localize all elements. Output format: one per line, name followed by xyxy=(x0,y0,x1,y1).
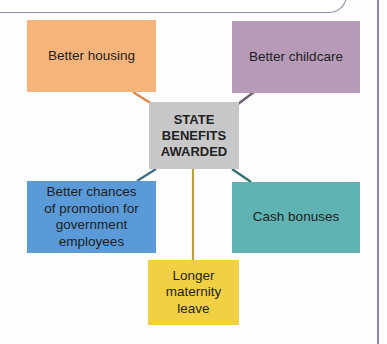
center-label-line: BENEFITS xyxy=(162,128,226,144)
node-label-line: of promotion for xyxy=(44,201,139,218)
node-label-line: employees xyxy=(59,234,124,251)
node-label-line: leave xyxy=(177,301,209,318)
connector-childcare xyxy=(238,92,254,104)
node-better-childcare: Better childcare xyxy=(232,21,360,93)
node-better-housing: Better housing xyxy=(27,20,156,92)
node-label-line: Longer xyxy=(172,268,214,285)
node-label-line: government xyxy=(56,217,127,234)
node-label: Cash bonuses xyxy=(253,209,339,226)
node-label-line: Better chances xyxy=(46,184,136,201)
connector-promotion xyxy=(137,169,156,181)
center-label-line: AWARDED xyxy=(161,144,227,160)
node-label: Better housing xyxy=(48,48,135,65)
center-node-state-benefits: STATE BENEFITS AWARDED xyxy=(149,102,239,169)
node-label: Better childcare xyxy=(249,49,343,66)
connector-cash xyxy=(232,169,251,182)
node-better-promotion-chances: Better chances of promotion for governme… xyxy=(27,181,156,253)
node-longer-maternity-leave: Longer maternity leave xyxy=(148,260,239,325)
node-label-line: maternity xyxy=(166,284,222,301)
node-cash-bonuses: Cash bonuses xyxy=(232,182,360,253)
center-label-line: STATE xyxy=(174,112,215,128)
